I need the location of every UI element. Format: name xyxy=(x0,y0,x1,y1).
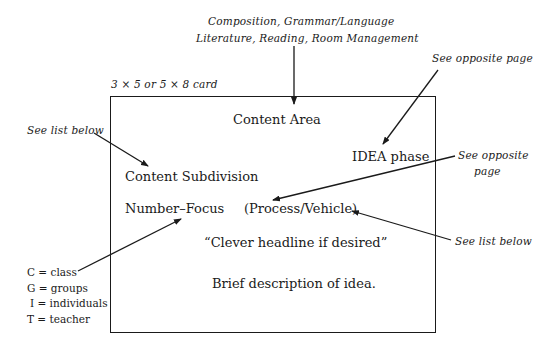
arrow-right-to-process-icon xyxy=(273,156,455,200)
arrow-legend-to-number-focus-icon xyxy=(78,219,181,271)
arrows-layer xyxy=(0,0,550,356)
arrow-right-below-to-process-icon xyxy=(352,211,451,240)
arrow-top-right-to-idea-icon xyxy=(383,70,438,144)
arrow-left-to-subdivision-icon xyxy=(94,133,148,166)
